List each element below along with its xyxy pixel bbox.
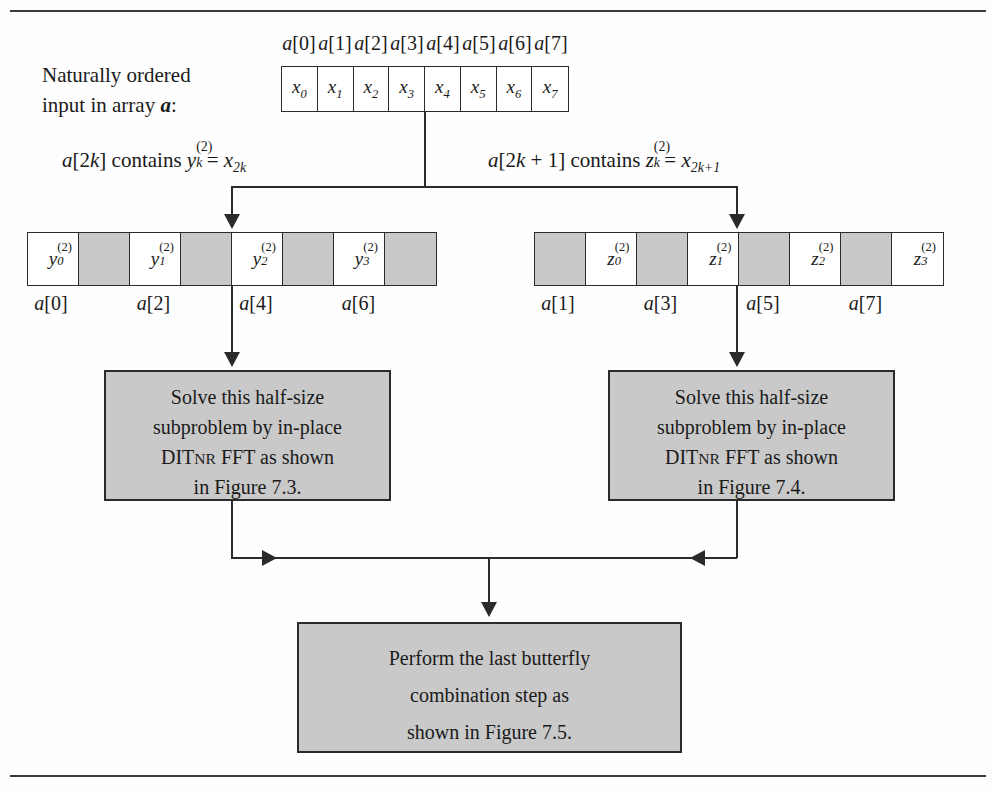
top-array-cell-1: x1 (318, 67, 354, 111)
right-subproblem-box: Solve this half-size subproblem by in-pl… (608, 370, 895, 501)
top-array-index-3: a[3] (389, 32, 425, 55)
top-array-index-labels: a[0]a[1]a[2]a[3]a[4]a[5]a[6]a[7] (281, 32, 569, 60)
top-array-cell-5: x5 (461, 67, 497, 111)
top-array-index-5: a[5] (461, 32, 497, 55)
odd-subarray-cell-6 (841, 233, 892, 285)
odd-subarray-cell-2 (637, 233, 688, 285)
odd-subarray: z(2)0z(2)1z(2)2z(2)3 (534, 232, 944, 286)
even-subarray-index-1: a[2] (119, 292, 189, 315)
figure-container: Naturally ordered input in array a: a[0]… (0, 0, 996, 792)
even-subarray-cell-7 (385, 233, 436, 285)
bottom-box-line-1: Perform the last butterfly (309, 640, 670, 677)
split-drop-right (736, 186, 738, 216)
bottom-box-line-2: combination step as (309, 677, 670, 714)
odd-subarray-cell-5: z(2)2 (790, 233, 841, 285)
split-drop-left (231, 186, 233, 216)
odd-subarray-index-3: a[7] (831, 292, 901, 315)
even-subarray-cell-1 (79, 233, 130, 285)
top-array-cell-6: x6 (497, 67, 533, 111)
even-subarray-cell-5 (283, 233, 334, 285)
split-stem-vertical (424, 112, 426, 188)
top-array-index-0: a[0] (281, 32, 317, 55)
top-array: x0x1x2x3x4x5x6x7 (281, 66, 569, 112)
left-box-line-1: Solve this half-size (116, 382, 379, 412)
top-array-index-6: a[6] (497, 32, 533, 55)
arrow-merge-from-right (690, 550, 705, 566)
arrow-to-left-array (224, 214, 240, 229)
input-caption: Naturally ordered input in array a: (42, 60, 272, 121)
top-array-cell-7: x7 (532, 67, 568, 111)
top-array-index-4: a[4] (425, 32, 461, 55)
top-array-index-2: a[2] (353, 32, 389, 55)
even-subarray-cell-4: y(2)2 (232, 233, 283, 285)
odd-subarray-index-0: a[1] (523, 292, 593, 315)
page-rule-top (10, 10, 986, 12)
right-box-line-4: in Figure 7.4. (620, 472, 883, 502)
page-rule-bottom (10, 775, 986, 777)
left-subproblem-box: Solve this half-size subproblem by in-pl… (104, 370, 391, 501)
caption-line-2: input in array a: (42, 93, 177, 117)
even-subarray-index-0: a[0] (16, 292, 86, 315)
top-array-index-1: a[1] (317, 32, 353, 55)
arrow-to-bottom-box (481, 602, 497, 617)
right-array-to-box-line (736, 286, 738, 352)
caption-array-symbol: a (160, 93, 171, 117)
top-array-cell-0: x0 (282, 67, 318, 111)
caption-line-1: Naturally ordered (42, 63, 191, 87)
right-box-line-3: DITNR FFT as shown (620, 442, 883, 472)
odd-subarray-index-2: a[5] (728, 292, 798, 315)
odd-subarray-cell-3: z(2)1 (688, 233, 739, 285)
bottom-box-line-3: shown in Figure 7.5. (309, 714, 670, 751)
even-subarray-cell-6: y(2)3 (334, 233, 385, 285)
top-array-index-7: a[7] (533, 32, 569, 55)
odd-subarray-cell-7: z(2)3 (892, 233, 943, 285)
left-box-merge-drop (231, 501, 233, 558)
right-box-merge-drop (736, 501, 738, 558)
odd-subarray-cell-1: z(2)0 (586, 233, 637, 285)
arrow-merge-from-left (262, 550, 277, 566)
merge-stem-to-bottom (488, 557, 490, 604)
left-box-line-2: subproblem by in-place (116, 412, 379, 442)
split-branch-left (231, 186, 426, 188)
left-box-line-3: DITNR FFT as shown (116, 442, 379, 472)
even-subarray-cell-3 (181, 233, 232, 285)
arrow-to-right-array (729, 214, 745, 229)
even-subarray-index-3: a[6] (324, 292, 394, 315)
left-array-to-box-line (231, 286, 233, 352)
left-box-line-4: in Figure 7.3. (116, 472, 379, 502)
top-array-cell-2: x2 (354, 67, 390, 111)
odd-subarray-cell-4 (739, 233, 790, 285)
even-subarray: y(2)0y(2)1y(2)2y(2)3 (27, 232, 437, 286)
split-branch-right (424, 186, 737, 188)
arrow-to-right-box (729, 352, 745, 367)
right-box-line-2: subproblem by in-place (620, 412, 883, 442)
top-array-cell-3: x3 (389, 67, 425, 111)
even-subarray-cell-0: y(2)0 (28, 233, 79, 285)
arrow-to-left-box (224, 352, 240, 367)
odd-subarray-cell-0 (535, 233, 586, 285)
right-box-line-1: Solve this half-size (620, 382, 883, 412)
even-subarray-cell-2: y(2)1 (130, 233, 181, 285)
equation-odd-indices: a[2k + 1] contains z(2)k = x2k+1 (488, 148, 720, 176)
odd-subarray-index-1: a[3] (626, 292, 696, 315)
top-array-cell-4: x4 (425, 67, 461, 111)
equation-even-indices: a[2k] contains y(2)k = x2k (62, 148, 246, 176)
combination-step-box: Perform the last butterfly combination s… (297, 622, 682, 753)
